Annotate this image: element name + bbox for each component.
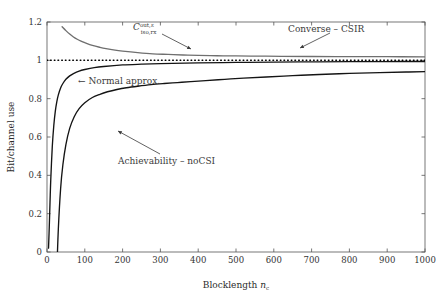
x-tick-label: 900 (379, 255, 395, 265)
y-tick-label: 0 (37, 247, 42, 257)
y-tick-label: 1.2 (28, 17, 42, 27)
annotation-converse-csir: Converse – CSIR (288, 24, 365, 34)
x-tick-label: 200 (114, 255, 130, 265)
x-tick-label: 700 (303, 255, 319, 265)
x-axis-title: Blocklength nc (203, 280, 269, 291)
annotation-normal-approx: ← Normal approx. (78, 76, 160, 86)
x-tick-label: 500 (228, 255, 244, 265)
y-tick-label: 0.6 (28, 132, 42, 142)
y-tick-label: 0.4 (28, 170, 42, 180)
chart-canvas: 01002003004005006007008009001000 00.20.4… (0, 0, 438, 298)
x-tick-label: 400 (190, 255, 206, 265)
x-tick-label: 600 (266, 255, 282, 265)
x-tick-label: 800 (341, 255, 357, 265)
y-tick-label: 1 (37, 55, 42, 65)
x-tick-label: 0 (44, 255, 49, 265)
figure-container: 01002003004005006007008009001000 00.20.4… (0, 0, 438, 298)
annotation-achievability-nocsi: Achievability – noCSI (117, 156, 216, 166)
x-tick-label: 300 (152, 255, 168, 265)
y-tick-label: 0.8 (28, 94, 42, 104)
y-tick-label: 0.2 (28, 209, 42, 219)
x-tick-label: 100 (77, 255, 93, 265)
x-tick-label: 1000 (414, 255, 436, 265)
y-axis-title: Bit/channel use (6, 102, 16, 173)
